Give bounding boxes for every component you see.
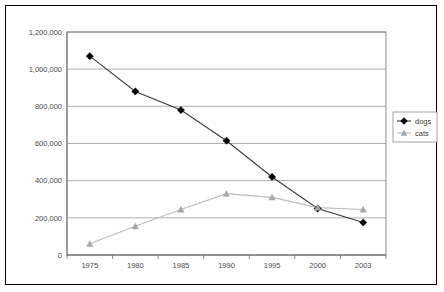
x-axis-tick-label: 1985: [173, 261, 190, 270]
chart-outer-frame: 0200,000400,000600,000800,0001,000,0001,…: [5, 5, 437, 285]
line-chart: 0200,000400,000600,000800,0001,000,0001,…: [6, 6, 438, 286]
data-point-dogs: [360, 219, 367, 226]
y-axis-tick-label: 0: [58, 251, 62, 260]
legend-label-cats: cats: [415, 129, 429, 138]
x-axis-tick-label: 1995: [264, 261, 281, 270]
x-axis-tick-label: 1990: [218, 261, 235, 270]
y-axis-tick-label: 600,000: [35, 139, 62, 148]
x-axis-tick-label: 2000: [309, 261, 326, 270]
y-axis-tick-label: 1,200,000: [29, 28, 62, 37]
x-axis-tick-label: 2003: [355, 261, 372, 270]
x-axis-tick-label: 1980: [127, 261, 144, 270]
y-axis-tick-label: 800,000: [35, 102, 62, 111]
legend-label-dogs: dogs: [415, 117, 432, 126]
x-axis-tick-label: 1975: [81, 261, 98, 270]
data-point-dogs: [177, 106, 184, 113]
y-axis-tick-label: 400,000: [35, 176, 62, 185]
y-axis-tick-label: 1,000,000: [29, 65, 62, 74]
chart-plot-wrapper: 0200,000400,000600,000800,0001,000,0001,…: [6, 6, 438, 286]
series-line-cats: [90, 194, 363, 244]
data-point-cats: [87, 241, 93, 247]
y-axis-tick-label: 200,000: [35, 214, 62, 223]
